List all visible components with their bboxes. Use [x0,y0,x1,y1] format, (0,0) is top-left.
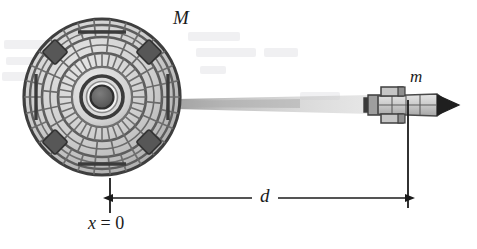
distance-label: d [255,186,275,205]
origin-equals: = [96,213,115,233]
physics-diagram-figure: M m d x = 0 [0,0,477,249]
origin-value: 0 [115,213,124,233]
origin-label: x = 0 [88,214,124,232]
distance-dimension-line [0,0,477,249]
spacecraft-mass-label: m [410,68,422,85]
origin-variable: x [88,213,96,233]
station-mass-label: M [173,8,189,27]
